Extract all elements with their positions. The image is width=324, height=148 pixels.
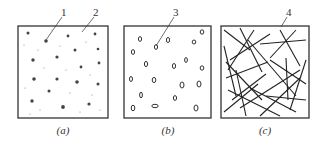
label-3: 3 bbox=[173, 6, 179, 18]
caption-c: (c) bbox=[245, 124, 285, 136]
needle-structure bbox=[224, 28, 306, 116]
panel-b-box bbox=[124, 26, 211, 118]
caption-b: (b) bbox=[148, 124, 188, 136]
caption-a: (a) bbox=[43, 124, 83, 136]
label-4: 4 bbox=[286, 6, 292, 18]
label-2: 2 bbox=[93, 6, 99, 18]
label-1: 1 bbox=[61, 6, 67, 18]
panel-a-box bbox=[18, 26, 108, 118]
